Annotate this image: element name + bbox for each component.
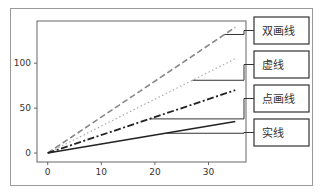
x-tick-label: 0 [45, 167, 51, 177]
y-tick-label: 50 [20, 103, 32, 113]
annotation-label: 双画线 [262, 24, 295, 38]
annotation-label: 实线 [262, 126, 284, 140]
annotation-connector [150, 99, 254, 119]
annotation-label: 虚线 [262, 58, 284, 72]
x-tick-label: 10 [96, 167, 108, 177]
series-line-dashdot [48, 90, 236, 153]
line-chart: 0102030050100 双画线虚线点画线实线 [0, 0, 323, 195]
x-tick-label: 20 [149, 167, 161, 177]
y-tick-label: 0 [25, 148, 31, 158]
annotation-label: 点画线 [262, 92, 295, 106]
y-tick-label: 100 [14, 58, 31, 68]
annotation-connector [192, 65, 254, 81]
series-line-dashed [48, 27, 236, 153]
series-line-dotted [48, 59, 236, 153]
series-line-solid [48, 122, 236, 153]
x-tick-label: 30 [203, 167, 215, 177]
annotation-connector [166, 133, 254, 134]
plot-area [37, 21, 246, 162]
